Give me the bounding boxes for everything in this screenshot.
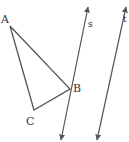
vertex-label-a: A <box>0 13 10 26</box>
vertex-label-b: B <box>73 82 81 95</box>
line-t <box>97 7 126 140</box>
geometry-diagram: A B C s t <box>0 0 129 142</box>
line-label-s: s <box>88 19 93 29</box>
line-s <box>61 7 88 140</box>
triangle-abc <box>10 26 70 110</box>
line-label-t: t <box>123 14 127 24</box>
vertex-label-c: C <box>26 115 34 128</box>
